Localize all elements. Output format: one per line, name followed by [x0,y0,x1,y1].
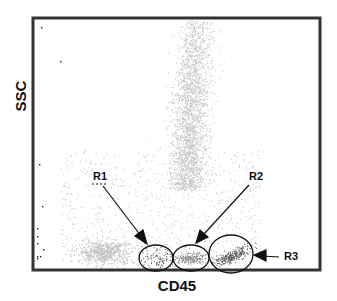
plot-frame [33,18,320,270]
flow-cytometry-plot: R1 R2 R3 CD45 SSC [0,0,337,301]
arrows [92,184,279,261]
x-axis-label: CD45 [158,277,196,294]
arrow-head-r1 [135,230,147,244]
label-r2: R2 [249,170,263,182]
label-r3: R3 [284,250,298,262]
scatter-points [37,20,261,269]
gate-r1 [139,245,173,271]
y-axis-label: SSC [12,80,29,111]
label-r1: R1 [93,170,107,182]
